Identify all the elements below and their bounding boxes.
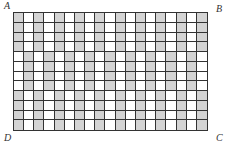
shaded-cell [65,62,75,72]
unshaded-cell [95,72,105,82]
unshaded-cell [65,23,75,33]
unshaded-cell [126,101,136,111]
unshaded-cell [105,120,115,130]
shaded-cell [85,72,95,82]
shaded-cell [166,81,176,91]
shaded-cell [187,72,197,82]
shaded-cell [197,42,207,52]
unshaded-cell [187,33,197,43]
rectangle-grid [13,12,208,131]
shaded-cell [156,101,166,111]
shaded-cell [116,120,126,130]
unshaded-cell [166,23,176,33]
shaded-cell [136,42,146,52]
shaded-cell [65,52,75,62]
shaded-cell [177,91,187,101]
shaded-cell [187,62,197,72]
unshaded-cell [34,52,44,62]
shaded-cell [187,52,197,62]
shaded-cell [95,101,105,111]
shaded-cell [85,52,95,62]
unshaded-cell [34,72,44,82]
shaded-cell [116,23,126,33]
unshaded-cell [85,91,95,101]
shaded-cell [177,111,187,121]
unshaded-cell [166,42,176,52]
unshaded-cell [146,91,156,101]
shaded-cell [156,120,166,130]
shaded-cell [116,111,126,121]
unshaded-cell [44,33,54,43]
unshaded-cell [44,13,54,23]
unshaded-cell [146,120,156,130]
shaded-cell [44,81,54,91]
shaded-cell [197,101,207,111]
unshaded-cell [105,111,115,121]
unshaded-cell [55,62,65,72]
unshaded-cell [187,101,197,111]
unshaded-cell [156,81,166,91]
shaded-cell [105,62,115,72]
unshaded-cell [136,62,146,72]
shaded-cell [85,81,95,91]
shaded-cell [116,33,126,43]
shaded-cell [197,111,207,121]
unshaded-cell [55,72,65,82]
shaded-cell [136,111,146,121]
unshaded-cell [116,72,126,82]
unshaded-cell [24,13,34,23]
shaded-cell [14,42,24,52]
unshaded-cell [44,42,54,52]
shaded-cell [44,72,54,82]
shaded-cell [55,42,65,52]
shaded-cell [55,13,65,23]
unshaded-cell [85,101,95,111]
shaded-cell [126,81,136,91]
unshaded-cell [126,33,136,43]
unshaded-cell [105,13,115,23]
shaded-cell [95,13,105,23]
shaded-cell [136,120,146,130]
unshaded-cell [136,81,146,91]
shaded-cell [166,52,176,62]
unshaded-cell [166,33,176,43]
unshaded-cell [85,42,95,52]
unshaded-cell [34,81,44,91]
unshaded-cell [126,13,136,23]
unshaded-cell [24,42,34,52]
shaded-cell [75,101,85,111]
shaded-cell [146,81,156,91]
unshaded-cell [24,23,34,33]
unshaded-cell [116,52,126,62]
shaded-cell [24,52,34,62]
unshaded-cell [95,52,105,62]
unshaded-cell [136,52,146,62]
shaded-cell [24,81,34,91]
unshaded-cell [146,42,156,52]
shaded-cell [75,91,85,101]
unshaded-cell [126,120,136,130]
unshaded-cell [166,91,176,101]
shaded-cell [136,91,146,101]
shaded-cell [126,52,136,62]
shaded-cell [14,23,24,33]
shaded-cell [75,120,85,130]
unshaded-cell [44,101,54,111]
shaded-cell [55,111,65,121]
unshaded-cell [24,111,34,121]
unshaded-cell [146,111,156,121]
unshaded-cell [146,23,156,33]
unshaded-cell [126,111,136,121]
unshaded-cell [24,101,34,111]
vertex-label-a: A [4,1,10,11]
shaded-cell [55,33,65,43]
shaded-cell [65,72,75,82]
shaded-cell [34,33,44,43]
shaded-cell [44,62,54,72]
unshaded-cell [197,62,207,72]
shaded-cell [177,13,187,23]
unshaded-cell [156,62,166,72]
shaded-cell [34,111,44,121]
unshaded-cell [105,33,115,43]
unshaded-cell [55,81,65,91]
